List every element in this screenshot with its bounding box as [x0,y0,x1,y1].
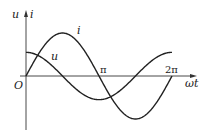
x-axis-label: ωt [185,77,199,90]
tick-label-2pi: 2π [165,64,178,75]
y-axis-label-i: i [30,8,34,21]
curve-i-label: i [77,24,81,37]
y-axis-label-u: u [12,8,19,21]
curve-u-label: u [51,50,58,63]
origin-label: O [14,79,23,92]
y-axis-arrow-icon [24,10,28,17]
waveform-diagram: u i O ωt π 2π i u [0,0,211,139]
tick-label-pi: π [100,64,107,75]
